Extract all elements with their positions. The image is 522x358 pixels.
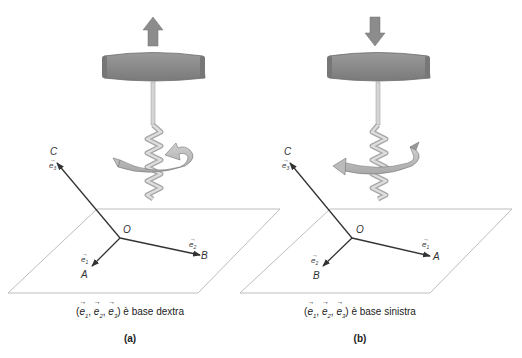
vector-arrow-e1-a: → — [82, 251, 88, 257]
caption-vec-e3: e3 — [336, 306, 345, 319]
caption-a: (e1, e2, e3) è base dextra — [30, 306, 230, 319]
point-label-C-a: C — [50, 146, 58, 157]
vector-arrow-e2-a: → — [190, 236, 196, 242]
caption-vec-e2: e2 — [94, 306, 103, 319]
axis-OC-b — [290, 163, 352, 238]
panel-a — [8, 17, 280, 293]
point-label-O-a: O — [123, 224, 131, 235]
axis-OB-b — [323, 238, 352, 266]
caption-vec-e1: e1 — [307, 306, 316, 319]
vector-arrow-e2-b: → — [312, 252, 318, 258]
caption-text-b: è base sinistra — [349, 306, 416, 317]
corkscrew-handle-a — [102, 53, 205, 82]
panel-b — [240, 17, 512, 293]
axis-OC-a — [57, 163, 120, 238]
caption-vec-e1: e1 — [79, 306, 88, 319]
point-label-B-a: B — [201, 250, 208, 261]
corkscrew-handle-b — [327, 53, 430, 82]
point-label-B-b: B — [313, 270, 320, 281]
subfigure-label-a: (a) — [30, 333, 230, 344]
caption-b: (e1, e2, e3) è base sinistra — [260, 306, 460, 319]
plane-b — [240, 209, 512, 293]
corkscrew-shaft-b — [376, 82, 380, 125]
subfigure-label-b: (b) — [260, 333, 460, 344]
vector-arrow-e3-a: → — [50, 157, 56, 163]
caption-vec-e3: e3 — [108, 306, 117, 319]
corkscrew-shaft-a — [151, 82, 155, 125]
down-arrow-icon — [365, 17, 385, 46]
axis-OA-a — [92, 238, 120, 266]
point-label-A-a: A — [80, 269, 88, 280]
axis-OB-a — [120, 238, 200, 255]
axis-OA-b — [352, 238, 430, 256]
caption-vec-e2: e2 — [322, 306, 331, 319]
plane-a — [8, 209, 280, 293]
point-label-A-b: A — [432, 251, 440, 262]
vector-arrow-e1-b: → — [423, 236, 429, 242]
point-label-C-b: C — [284, 146, 292, 157]
figure-canvas: C e3 → O e2 → B e1 → A C e3 → O e1 → A e… — [0, 0, 522, 358]
vector-arrow-e3-b: → — [283, 157, 289, 163]
point-label-O-b: O — [356, 224, 364, 235]
caption-text-a: è base dextra — [121, 306, 184, 317]
up-arrow-icon — [143, 17, 163, 46]
